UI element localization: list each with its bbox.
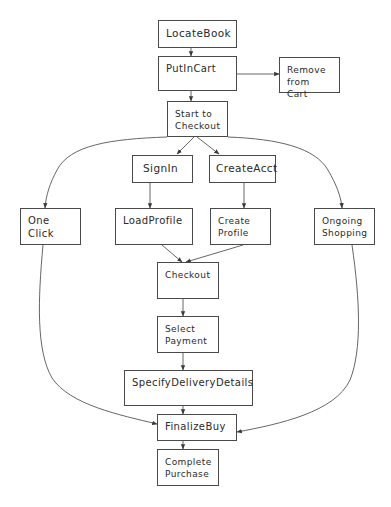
node-locate-book[interactable]: LocateBook bbox=[158, 20, 237, 48]
node-select-payment[interactable]: Select Payment bbox=[157, 316, 219, 353]
node-start-to-checkout[interactable]: Start to Checkout bbox=[167, 101, 228, 137]
node-one-click[interactable]: One Click bbox=[20, 208, 81, 245]
node-checkout[interactable]: Checkout bbox=[157, 262, 219, 299]
node-sign-in[interactable]: SignIn bbox=[132, 155, 193, 183]
node-specify-delivery-details[interactable]: SpecifyDeliveryDetails bbox=[124, 370, 253, 406]
edge-starttocheckout-signin bbox=[177, 137, 194, 154]
flowchart-canvas: LocateBook PutInCart Remove from Cart St… bbox=[0, 0, 391, 507]
node-create-acct[interactable]: CreateAcct bbox=[209, 155, 276, 183]
node-create-profile[interactable]: Create Profile bbox=[210, 208, 271, 245]
edge-ongoingshopping-finalizebuy bbox=[237, 245, 359, 432]
edge-createprofile-checkout bbox=[186, 245, 243, 262]
node-ongoing-shopping[interactable]: Ongoing Shopping bbox=[314, 208, 375, 245]
edge-loadprofile-checkout bbox=[162, 245, 182, 262]
node-complete-purchase[interactable]: Complete Purchase bbox=[157, 449, 219, 486]
node-put-in-cart[interactable]: PutInCart bbox=[158, 56, 237, 91]
node-finalize-buy[interactable]: FinalizeBuy bbox=[157, 414, 237, 441]
node-load-profile[interactable]: LoadProfile bbox=[115, 208, 193, 245]
edge-starttocheckout-createacct bbox=[197, 137, 219, 154]
node-remove-from-cart[interactable]: Remove from Cart bbox=[279, 57, 340, 93]
